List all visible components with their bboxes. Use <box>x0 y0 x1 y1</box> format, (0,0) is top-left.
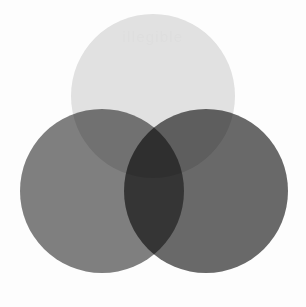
venn-canvas <box>0 0 306 307</box>
venn-circle-right <box>124 109 288 273</box>
venn-diagram-figure: illegible <box>0 0 306 307</box>
